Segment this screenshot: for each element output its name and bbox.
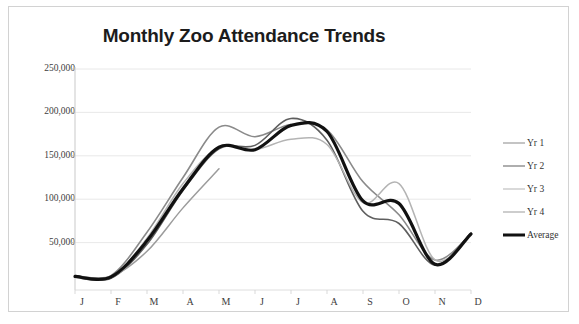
chart-frame: Monthly Zoo Attendance Trends 50,000100,…	[8, 6, 569, 312]
legend-label: Yr 3	[527, 184, 544, 194]
legend-item-yr-4[interactable]: Yr 4	[503, 200, 579, 223]
x-tick-label: M	[214, 296, 238, 307]
x-tick-label: J	[250, 296, 274, 307]
legend-item-yr-3[interactable]: Yr 3	[503, 177, 579, 200]
legend-item-yr-1[interactable]: Yr 1	[503, 131, 579, 154]
legend-swatch-icon	[503, 161, 525, 171]
legend-label: Yr 2	[527, 161, 544, 171]
legend-label: Yr 4	[527, 207, 544, 217]
x-tick-label: A	[322, 296, 346, 307]
legend-label: Yr 1	[527, 138, 544, 148]
legend-item-average[interactable]: Average	[503, 223, 579, 246]
x-tick-label: S	[358, 296, 382, 307]
x-tick-label: D	[466, 296, 490, 307]
plot-area	[9, 7, 570, 313]
series-line-average	[75, 123, 471, 280]
x-tick-label: A	[178, 296, 202, 307]
x-tick-label: F	[106, 296, 130, 307]
chart-legend: Yr 1Yr 2Yr 3Yr 4Average	[503, 131, 579, 246]
legend-swatch-icon	[503, 138, 525, 148]
legend-item-yr-2[interactable]: Yr 2	[503, 154, 579, 177]
x-tick-label: O	[394, 296, 418, 307]
x-tick-label: J	[70, 296, 94, 307]
legend-swatch-icon	[503, 207, 525, 217]
legend-swatch-icon	[503, 184, 525, 194]
legend-label: Average	[527, 230, 558, 240]
x-tick-label: J	[286, 296, 310, 307]
x-tick-label: N	[430, 296, 454, 307]
x-tick-label: M	[142, 296, 166, 307]
x-axis-tick-labels: JFMAMJJASOND	[82, 296, 479, 314]
series-line-yr-4	[75, 169, 219, 278]
legend-swatch-icon	[503, 230, 525, 240]
